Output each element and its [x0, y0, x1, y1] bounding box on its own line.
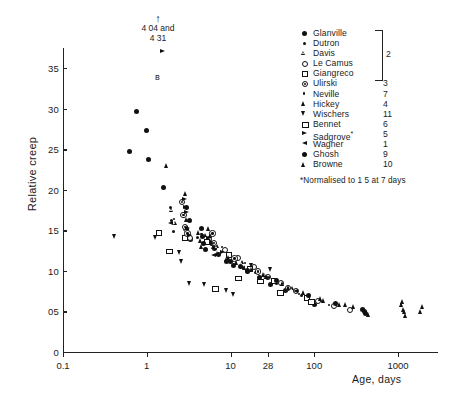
data-point — [224, 288, 228, 293]
data-point — [277, 290, 284, 295]
data-point — [293, 289, 298, 293]
legend-marker-icon — [302, 31, 307, 36]
legend-ref-number: 1 — [383, 139, 388, 149]
data-point — [318, 296, 322, 301]
data-point — [164, 163, 168, 168]
data-point — [403, 313, 407, 318]
legend-ref-number: 9 — [383, 149, 388, 159]
data-point — [235, 276, 242, 281]
legend-label: Wischers — [313, 109, 349, 119]
data-point — [183, 191, 187, 196]
legend-ref-number: 3 — [383, 78, 388, 88]
data-point — [202, 282, 206, 287]
legend-item-ghosh: Ghosh9 — [300, 149, 455, 159]
legend-item-wischers: Wischers11 — [300, 109, 455, 119]
data-point — [343, 302, 347, 307]
data-point — [301, 290, 305, 295]
legend-item-wagner: Wagner1 — [300, 139, 455, 149]
x-tick-label: 1000 — [378, 360, 418, 371]
data-point — [280, 281, 284, 286]
legend-ref-number: 10 — [383, 159, 393, 169]
y-tick-label: 10 — [29, 266, 59, 277]
legend-label: Le Camus — [313, 58, 353, 68]
data-point — [184, 217, 188, 222]
data-point — [401, 307, 405, 312]
legend-item-bennet: Bennet6 — [300, 119, 455, 129]
data-point — [333, 301, 338, 306]
data-point — [206, 236, 211, 240]
legend-marker-icon — [301, 162, 305, 167]
data-point — [308, 299, 315, 304]
y-axis-line — [63, 48, 64, 353]
chart-figure: Relative creep Age, days 005101520253035… — [0, 0, 462, 396]
legend-marker-icon — [302, 81, 308, 87]
x-tick — [398, 352, 399, 357]
legend-label: Davis — [313, 48, 335, 58]
x-tick-label: 100 — [294, 360, 334, 371]
x-tick-label: 0.1 — [43, 360, 83, 371]
legend-marker-icon — [302, 61, 308, 67]
data-point — [198, 238, 202, 243]
x-axis-title: Age, days — [352, 373, 401, 385]
data-point — [220, 250, 225, 254]
legend-label: Neville — [313, 89, 340, 99]
legend-ref-number: 6 — [383, 119, 388, 129]
legend-marker-icon — [301, 101, 305, 106]
data-point — [127, 149, 132, 154]
data-point — [286, 285, 290, 290]
legend-marker-icon — [301, 51, 305, 55]
stray-marker-b: ʙ — [155, 72, 160, 82]
data-point — [179, 259, 183, 264]
data-point — [328, 304, 330, 306]
chart-legend: GlanvilleDutronDavisLe CamusGiangrecoUli… — [300, 28, 455, 169]
annotation-line-2: 4 31 — [118, 33, 198, 43]
y-tick-label: 20 — [29, 185, 59, 196]
out-of-range-annotation: ↑ 4 04 and 4 31 — [118, 14, 198, 43]
y-tick-label: 05 — [29, 306, 59, 317]
data-point — [400, 299, 404, 304]
y-tick-label: 15 — [29, 225, 59, 236]
data-point — [196, 230, 200, 235]
data-point — [418, 309, 422, 314]
data-point — [173, 218, 175, 220]
data-point — [268, 267, 272, 272]
legend-marker-icon — [303, 92, 305, 94]
data-point — [153, 235, 157, 240]
legend-label: Glanville — [313, 28, 347, 38]
y-tick-label: 35 — [29, 63, 59, 74]
data-point — [306, 293, 311, 298]
legend-marker-icon — [302, 152, 307, 157]
y-tick — [63, 109, 67, 110]
y-tick-label: 25 — [29, 144, 59, 155]
legend-footnote: *Normalised to 1 5 at 7 days — [300, 176, 406, 185]
data-point — [134, 109, 139, 114]
data-point — [161, 185, 166, 190]
x-tick-label: 1 — [127, 360, 167, 371]
y-tick-label: 30 — [29, 104, 59, 115]
y-axis-title: Relative creep — [26, 114, 38, 234]
legend-marker-icon — [301, 111, 305, 116]
legend-ref-number: 11 — [383, 109, 392, 119]
data-point — [231, 263, 236, 268]
legend-item-browne: Browne10 — [300, 159, 455, 169]
data-point — [231, 292, 235, 297]
data-point — [169, 208, 173, 212]
legend-marker-icon — [303, 42, 306, 45]
data-point — [172, 230, 175, 233]
x-tick — [268, 352, 269, 357]
data-point — [211, 253, 216, 257]
data-point — [144, 128, 149, 133]
up-arrow-icon: ↑ — [118, 14, 198, 23]
legend-group-ref: 2 — [386, 49, 391, 59]
legend-label: Bennet — [313, 119, 341, 129]
data-point — [182, 197, 187, 201]
legend-label: Hickey — [313, 99, 339, 109]
legend-group-bracket — [375, 30, 383, 81]
x-tick — [231, 352, 232, 357]
legend-label: Browne — [313, 159, 343, 169]
y-tick — [63, 190, 67, 191]
data-point — [183, 205, 188, 209]
x-tick-label: 28 — [248, 360, 288, 371]
data-point — [242, 265, 246, 270]
legend-marker-icon — [302, 71, 308, 77]
